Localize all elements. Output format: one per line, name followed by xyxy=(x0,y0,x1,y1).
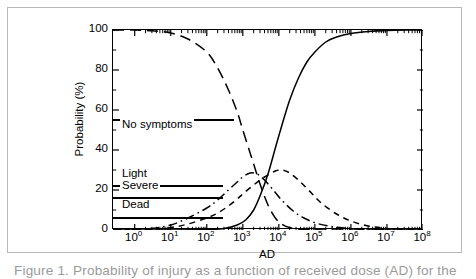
y-tick-0: 0 xyxy=(102,223,108,235)
figure-frame: Probability (%) 020406080100 No symptoms… xyxy=(7,7,462,253)
y-axis-label-wrap: Probability (%) xyxy=(56,29,74,229)
x-tick-10e5: 105 xyxy=(305,232,322,244)
legend-label-light: Light xyxy=(120,168,149,180)
y-tick-20: 20 xyxy=(95,183,108,195)
figure-caption: Figure 1. Probability of injury as a fun… xyxy=(14,262,462,279)
y-axis-tick-labels: 020406080100 xyxy=(80,29,108,229)
x-tick-10e0: 100 xyxy=(125,232,142,244)
plot-area: No symptomsLightSevereDead xyxy=(112,29,422,229)
x-tick-10e1: 101 xyxy=(161,232,178,244)
legend-rule-dead xyxy=(113,217,223,219)
legend-label-severe: Severe xyxy=(120,180,160,192)
curve-light xyxy=(113,170,423,230)
x-tick-10e6: 106 xyxy=(341,232,358,244)
y-tick-40: 40 xyxy=(95,143,108,155)
legend-label-dead: Dead xyxy=(120,199,152,211)
x-axis-tick-labels: 100101102103104105106107108 xyxy=(112,232,422,249)
x-tick-10e8: 108 xyxy=(413,232,430,244)
figure-root: Probability (%) 020406080100 No symptoms… xyxy=(0,0,476,279)
x-tick-10e2: 102 xyxy=(197,232,214,244)
legend-label-no-symptoms: No symptoms xyxy=(120,119,194,131)
y-tick-60: 60 xyxy=(95,103,108,115)
x-tick-10e7: 107 xyxy=(377,232,394,244)
x-axis-label: AD xyxy=(112,248,422,260)
x-tick-10e4: 104 xyxy=(269,232,286,244)
x-tick-10e3: 103 xyxy=(233,232,250,244)
y-tick-100: 100 xyxy=(89,23,108,35)
y-tick-80: 80 xyxy=(95,63,108,75)
